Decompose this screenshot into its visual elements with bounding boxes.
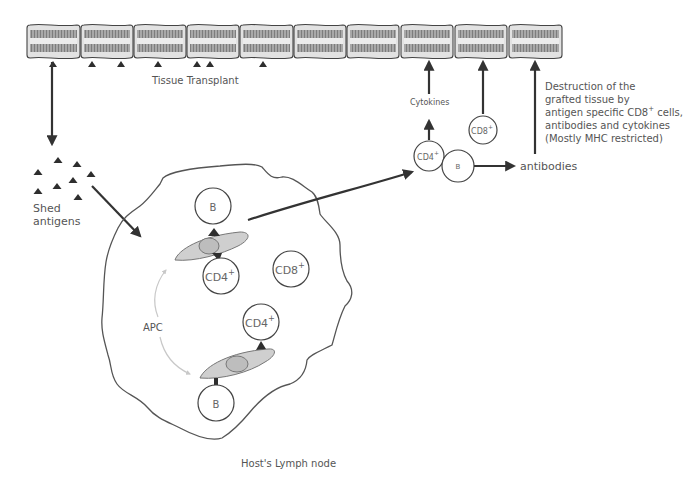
destruction-description: Destruction of the grafted tissue by ant…: [545, 81, 683, 144]
cell-lymph-b-bottom: B: [198, 385, 234, 421]
arrow-lymph-node-to-effectors: [248, 172, 412, 220]
apc-cycle-arc-bottom: [160, 337, 190, 374]
cell-lymph-b-top: B: [195, 188, 231, 224]
shed-antigen-triangle: [73, 161, 82, 167]
mhc-receptor-bottom-b: [214, 378, 218, 385]
cytokines-label: Cytokines: [410, 98, 449, 107]
mhc-antigen-top-b: [208, 228, 220, 236]
membrane-segment: [509, 24, 562, 58]
shed-antigen-triangle: [87, 171, 96, 177]
svg-text:antigen specific CD8+ cells,: antigen specific CD8+ cells,: [545, 105, 683, 118]
immune-cells: BCD4+CD8+CD4+BCD4+BCD8+: [195, 116, 497, 421]
shed-antigen-triangle: [34, 169, 43, 175]
svg-text:antibodies and cytokines: antibodies and cytokines: [545, 120, 670, 131]
shed-antigen-triangle: [53, 183, 62, 189]
shed-antigens-cluster: [34, 157, 96, 200]
svg-text:Destruction of the: Destruction of the: [545, 81, 636, 92]
antigen-triangle: [259, 61, 267, 67]
lymph-node-label: Host's Lymph node: [241, 458, 336, 469]
cell-lymph-cd4-top: CD4+: [203, 258, 239, 294]
antigen-triangle: [117, 61, 125, 67]
cell-lymph-cd4-bottom: CD4+: [243, 304, 279, 340]
membrane-segment: [240, 24, 293, 58]
shed-antigens-label-line2: antigens: [33, 215, 81, 228]
membrane-antigens: [49, 61, 267, 67]
shed-antigens-label-line1: Shed: [33, 202, 61, 215]
apc-bottom: [200, 349, 274, 378]
membrane-segment: [134, 24, 186, 58]
antigen-triangle: [193, 61, 201, 67]
apc-top: [175, 232, 248, 260]
antibodies-label: antibodies: [520, 160, 578, 173]
membrane-segment: [455, 24, 507, 58]
svg-text:grafted tissue by: grafted tissue by: [545, 94, 630, 105]
membrane-segment: [401, 24, 453, 58]
svg-text:(Mostly MHC restricted): (Mostly MHC restricted): [545, 133, 663, 144]
cell-lymph-cd8: CD8+: [273, 251, 309, 287]
graft-rejection-diagram: Tissue Transplant Shed antigens APC BCD4…: [0, 0, 700, 494]
cell-effector-cd8: CD8+: [469, 116, 497, 144]
tissue-transplant-label: Tissue Transplant: [151, 75, 239, 86]
shed-antigen-triangle: [34, 188, 43, 194]
membrane-segment: [347, 24, 399, 58]
shed-antigen-triangle: [54, 157, 63, 163]
antigen-triangle: [206, 61, 214, 67]
tissue-transplant-membrane: [27, 24, 562, 58]
shed-antigen-triangle: [74, 194, 83, 200]
cell-effector-b: B: [442, 150, 474, 182]
antigen-triangle: [88, 61, 96, 67]
svg-text:B: B: [210, 202, 217, 213]
cell-effector-cd4: CD4+: [414, 141, 444, 171]
membrane-segment: [27, 24, 80, 58]
shed-antigen-triangle: [69, 177, 78, 183]
apc-cycle-arc-top: [155, 270, 166, 317]
svg-text:B: B: [213, 399, 220, 410]
membrane-segment: [187, 24, 239, 58]
apc-label: APC: [143, 322, 163, 333]
membrane-segment: [81, 24, 133, 58]
svg-text:B: B: [456, 163, 461, 171]
mhc-antigen-bottom-cd4: [256, 341, 266, 350]
membrane-segment: [294, 24, 346, 58]
antigen-triangle: [154, 61, 162, 67]
